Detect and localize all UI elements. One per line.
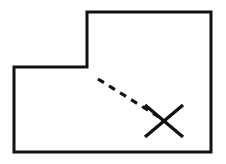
diagram-svg [0,0,226,164]
diagram-canvas [0,0,226,164]
diagram-background [0,0,226,164]
